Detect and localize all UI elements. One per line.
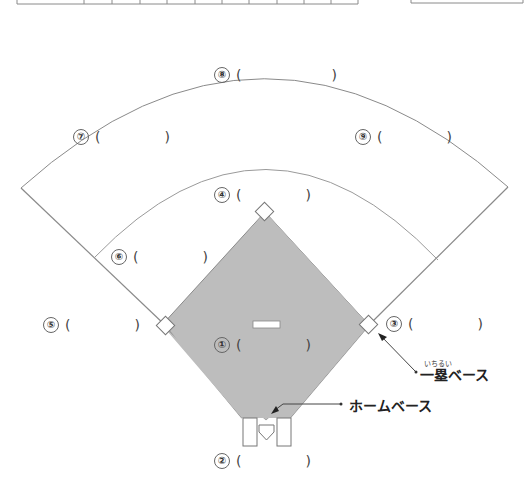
first-base-arrow (378, 333, 418, 374)
position-1-label: ①() (214, 336, 311, 353)
answer-blank[interactable] (100, 130, 164, 144)
position-9-label: ⑨() (355, 128, 452, 145)
position-number: ⑦ (73, 129, 89, 145)
top-box (411, 0, 523, 3)
answer-blank[interactable] (382, 130, 446, 144)
answer-blank[interactable] (70, 318, 134, 332)
position-number: ⑨ (355, 129, 371, 145)
position-number: ⑥ (111, 249, 127, 265)
answer-blank[interactable] (138, 250, 202, 264)
position-5-label: ⑤() (43, 316, 140, 333)
answer-blank[interactable] (241, 338, 305, 352)
right-batters-box (277, 418, 291, 446)
position-number: ④ (214, 187, 230, 203)
right-foul-line (369, 187, 508, 325)
pitchers-plate (253, 321, 280, 328)
first-base-callout: 一塁ベース (420, 364, 489, 384)
position-number: ⑤ (43, 317, 59, 333)
position-6-label: ⑥() (111, 248, 208, 265)
left-batters-box (243, 418, 257, 446)
top-table (17, 0, 358, 4)
position-7-label: ⑦() (73, 128, 170, 145)
answer-blank[interactable] (241, 188, 305, 202)
position-number: ② (214, 453, 230, 469)
answer-blank[interactable] (241, 68, 331, 82)
home-base-callout: ホームベース (349, 395, 432, 415)
answer-blank[interactable] (413, 317, 477, 331)
position-4-label: ④() (214, 186, 311, 203)
position-3-label: ③() (386, 315, 483, 332)
position-8-label: ⑧() (214, 66, 337, 83)
position-number: ① (214, 337, 230, 353)
answer-blank[interactable] (241, 454, 305, 468)
position-2-label: ②() (214, 452, 311, 469)
home-plate (259, 425, 274, 440)
position-number: ⑧ (214, 67, 230, 83)
position-number: ③ (386, 316, 402, 332)
